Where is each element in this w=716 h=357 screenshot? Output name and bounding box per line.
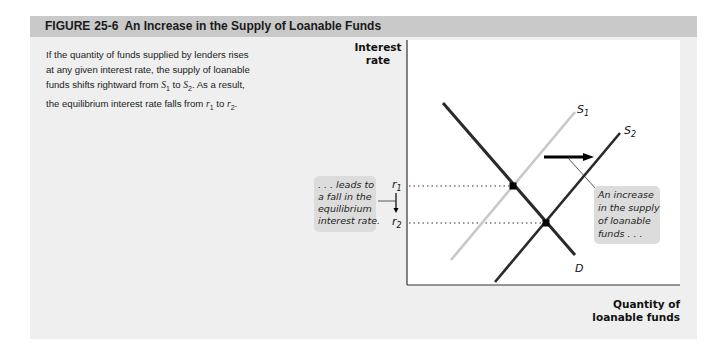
callout-leader-line: [568, 158, 596, 189]
r2-label: r2: [392, 215, 402, 230]
supply-callout-line4: funds . . .: [598, 228, 643, 239]
rate-callout-line3: equilibrium: [318, 203, 372, 214]
s2-label-sub: 2: [631, 130, 636, 139]
chart-svg: Interest rate Quantity of loanable funds…: [0, 0, 716, 357]
d-label: D: [575, 262, 583, 275]
x-axis-label-line2: loanable funds: [592, 311, 680, 323]
rate-callout-line2: a fall in the: [318, 191, 372, 202]
y-axis-label-line1: Interest: [354, 41, 401, 53]
rate-callout-line4: interest rate.: [318, 215, 380, 226]
s1-label: S1: [577, 103, 589, 118]
demand-curve: [443, 103, 575, 255]
r1-label: r1: [392, 178, 402, 193]
equilibrium-point-e2: [543, 220, 550, 227]
s2-label-text: S: [624, 124, 631, 137]
supply-callout-line2: in the supply: [598, 202, 660, 213]
s1-label-text: S: [577, 103, 584, 116]
r1-sub: 1: [397, 184, 402, 193]
shift-arrow-head-icon: [583, 153, 594, 161]
x-axis-label-line1: Quantity of: [613, 298, 680, 310]
supply-callout-line1: An increase: [597, 189, 654, 200]
y-axis-label-line2: rate: [366, 54, 390, 66]
rate-callout-line1: . . . leads to: [318, 179, 374, 190]
s1-label-sub: 1: [584, 109, 589, 118]
s2-label: S2: [624, 124, 636, 139]
r2-sub: 2: [397, 221, 402, 230]
rate-fall-arrow-head-icon: [394, 208, 399, 213]
equilibrium-point-e1: [510, 183, 517, 190]
supply-callout-line3: of loanable: [598, 215, 651, 226]
